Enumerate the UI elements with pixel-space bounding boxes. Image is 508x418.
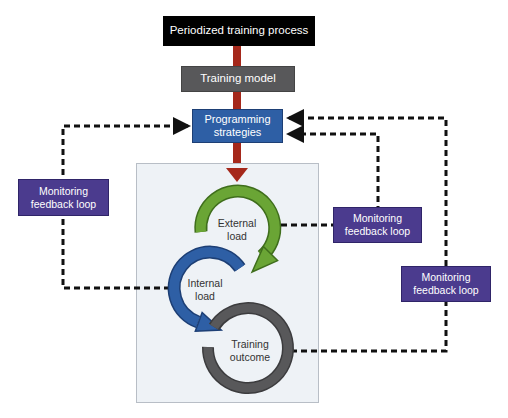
box-label: Periodized training process (170, 24, 309, 38)
label-line2: load (173, 290, 237, 303)
box-label-line1: Programming (204, 113, 270, 126)
periodized-training-process-box: Periodized training process (163, 16, 315, 46)
box-label-line2: feedback loop (345, 225, 410, 238)
label-line2: outcome (217, 351, 283, 364)
box-label-line1: Monitoring (353, 212, 402, 225)
box-label: Training model (200, 72, 276, 86)
box-label-line1: Monitoring (39, 185, 88, 198)
label-line1: Internal (173, 277, 237, 290)
monitoring-feedback-loop-middle: Monitoring feedback loop (333, 207, 422, 243)
box-label-line2: feedback loop (413, 284, 478, 297)
box-label-line2: feedback loop (31, 198, 96, 211)
internal-load-label: Internal load (173, 277, 237, 303)
box-label-line2: strategies (214, 126, 262, 139)
label-line1: External (205, 217, 269, 230)
training-outcome-label: Training outcome (217, 338, 283, 364)
main-arrow-head (226, 168, 248, 182)
monitoring-feedback-loop-left: Monitoring feedback loop (18, 179, 109, 216)
training-model-box: Training model (181, 66, 295, 92)
monitoring-feedback-loop-right: Monitoring feedback loop (401, 266, 491, 302)
label-line1: Training (217, 338, 283, 351)
box-label-line1: Monitoring (421, 271, 470, 284)
label-line2: load (205, 230, 269, 243)
programming-strategies-box: Programming strategies (192, 109, 283, 143)
external-load-label: External load (205, 217, 269, 243)
